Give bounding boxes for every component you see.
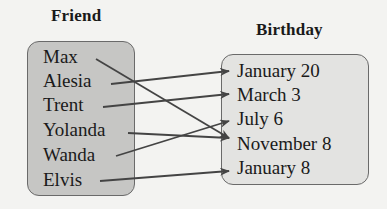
friend-item: Yolanda [43, 120, 105, 140]
friend-item: Wanda [43, 145, 95, 165]
friend-title: Friend [51, 6, 101, 26]
birthday-item: November 8 [237, 134, 331, 154]
birthday-item: January 8 [237, 158, 310, 178]
arrow-yolanda-to-november-8 [128, 133, 229, 138]
friend-item: Alesia [43, 71, 92, 91]
birthday-item: July 6 [237, 109, 283, 129]
birthday-item: March 3 [237, 85, 301, 105]
friend-item: Trent [43, 95, 83, 115]
friend-item: Elvis [43, 170, 82, 190]
birthday-title: Birthday [256, 20, 323, 40]
friend-item: Max [43, 47, 78, 67]
birthday-item: January 20 [237, 61, 320, 81]
